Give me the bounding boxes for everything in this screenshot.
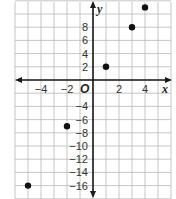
x-axis-left-arrow-icon <box>15 77 22 83</box>
y-tick-label: −12 <box>69 153 88 165</box>
y-tick-label: −6 <box>75 114 88 126</box>
y-tick-label: −14 <box>69 166 88 178</box>
y-tick-label: 8 <box>82 21 88 33</box>
data-point <box>142 4 148 10</box>
y-axis-up-arrow-icon <box>90 1 96 8</box>
coordinate-plane: y x O −4−224 8642−4−6−8−10−12−14−16 <box>0 0 176 199</box>
y-tick-label: 6 <box>82 34 88 46</box>
y-tick-label: −4 <box>75 100 88 112</box>
y-tick-label: 4 <box>82 48 88 60</box>
y-tick-label: 2 <box>82 61 88 73</box>
data-point <box>64 123 70 129</box>
y-tick-label: −8 <box>75 127 88 139</box>
y-axis-label: y <box>95 2 103 16</box>
x-tick-label: 4 <box>142 83 148 95</box>
x-tick-label: −2 <box>61 83 74 95</box>
y-tick-label: −10 <box>69 140 88 152</box>
data-point <box>103 64 109 70</box>
y-tick-label: −16 <box>69 180 88 192</box>
x-tick-label: 2 <box>116 83 122 95</box>
x-axis-label: x <box>161 82 168 96</box>
origin-label: O <box>80 82 90 96</box>
data-point <box>25 182 31 188</box>
data-point <box>129 24 135 30</box>
y-axis-down-arrow-icon <box>90 191 96 198</box>
x-tick-label: −4 <box>35 83 48 95</box>
axes: y x O <box>15 1 172 198</box>
